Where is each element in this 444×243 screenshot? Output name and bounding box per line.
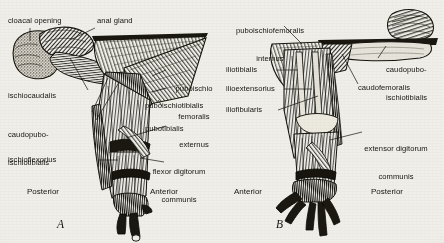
orientation-posterior-a: Posterior bbox=[27, 187, 59, 196]
label-line-1: puboischiofemoralis bbox=[226, 26, 314, 35]
label-flexor-digitorum-communis: flexor digitorum communis bbox=[145, 149, 213, 223]
label-pubotibialis: pubotibialis bbox=[145, 124, 184, 133]
label-caudofemoralis: caudofemoralis bbox=[358, 83, 410, 92]
label-caudopubo-ischiotibialis-a: caudopubo- ischiotibialis bbox=[8, 112, 49, 186]
orientation-anterior-a: Anterior bbox=[150, 187, 178, 196]
label-ischioflexorius: ischioflexorius bbox=[8, 155, 56, 164]
label-line-2: communis bbox=[356, 172, 436, 181]
orientation-anterior-b: Anterior bbox=[234, 187, 262, 196]
label-line-1: puboischio bbox=[166, 84, 222, 93]
panel-letter-b: B bbox=[276, 218, 283, 230]
label-line-2: ischiotibialis bbox=[386, 93, 427, 102]
label-anal-gland: anal gland bbox=[97, 16, 133, 25]
label-line-2: internus bbox=[226, 54, 314, 63]
label-line-1: caudopubo- bbox=[386, 65, 427, 74]
label-ilioextensorius: ilioextensorius bbox=[226, 84, 275, 93]
label-line-1: extensor digitorum bbox=[356, 144, 436, 153]
label-line-2: femoralis bbox=[166, 112, 222, 121]
label-iliofibularis: iliofibularis bbox=[226, 105, 262, 114]
label-puboischiotibialis-a: puboischiotibialis bbox=[145, 101, 203, 110]
label-line-1: flexor digitorum bbox=[145, 167, 213, 176]
panel-letter-a: A bbox=[57, 218, 64, 230]
label-iliotibialis: iliotibialis bbox=[226, 65, 257, 74]
label-ischiocaudalis: ischiocaudalis bbox=[8, 91, 56, 100]
label-line-2: communis bbox=[145, 195, 213, 204]
figure-illustration bbox=[0, 0, 444, 243]
label-line-1: caudopubo- bbox=[8, 130, 49, 139]
label-line-3: externus bbox=[166, 140, 222, 149]
label-cloacal-opening: cloacal opening bbox=[8, 16, 62, 25]
anatomical-figure: cloacal opening anal gland puboischio fe… bbox=[0, 0, 444, 243]
orientation-posterior-b: Posterior bbox=[371, 187, 403, 196]
